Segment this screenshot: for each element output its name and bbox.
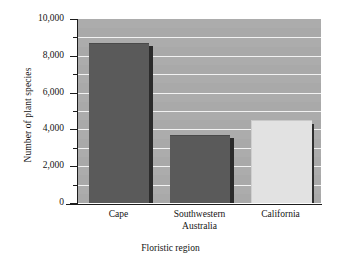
bar-shadow — [230, 138, 234, 203]
x-tick-label: SouthwesternAustralia — [159, 209, 240, 232]
y-tick-label: 6,000 — [18, 88, 64, 98]
bar-body — [89, 43, 149, 203]
plot-background-band — [78, 19, 321, 28]
bar-shadow — [149, 46, 153, 203]
y-tick-minor — [73, 185, 78, 186]
x-tick-label-line1: Cape — [78, 209, 159, 221]
x-tick-label-line2: Australia — [159, 221, 240, 233]
y-tick-label: 2,000 — [18, 161, 64, 171]
y-tick-major — [70, 129, 77, 130]
y-tick-major — [70, 93, 77, 94]
x-tick-label: Cape — [78, 209, 159, 221]
x-tick-label: California — [240, 209, 321, 221]
bar-cape — [89, 43, 149, 203]
y-axis-line — [77, 19, 78, 204]
x-axis-title: Floristic region — [0, 243, 341, 253]
bar-southwestern-australia — [170, 135, 230, 203]
y-tick-label: 4,000 — [18, 124, 64, 134]
x-axis-line — [66, 204, 322, 205]
gridline — [78, 37, 321, 38]
y-tick-major — [70, 56, 77, 57]
y-tick-label: 8,000 — [18, 51, 64, 61]
x-tick-label-line1: California — [240, 209, 321, 221]
bar-body — [170, 135, 230, 203]
y-tick-minor — [73, 37, 78, 38]
y-tick-major — [70, 19, 77, 20]
y-tick-minor — [73, 111, 78, 112]
y-tick-label-group: 02,0004,0006,0008,00010,000 — [16, 0, 64, 266]
x-tick-label-line1: Southwestern — [159, 209, 240, 221]
bar-body — [251, 120, 312, 203]
plot-area — [78, 19, 321, 203]
y-tick-label: 0 — [18, 198, 64, 208]
y-tick-major — [70, 166, 77, 167]
bar-california — [251, 120, 311, 203]
bar-chart-figure: Number of plant species 02,0004,0006,000… — [0, 0, 341, 266]
y-tick-label: 10,000 — [18, 14, 64, 24]
y-tick-minor — [73, 74, 78, 75]
y-tick-minor — [73, 148, 78, 149]
y-tick-major — [70, 203, 77, 204]
